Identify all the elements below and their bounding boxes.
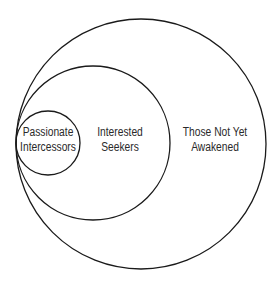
label-line: Awakened: [183, 140, 247, 155]
label-line: Intercessors: [20, 140, 76, 155]
label-line: Passionate: [20, 125, 76, 140]
label-those-not-yet-awakened: Those Not Yet Awakened: [183, 125, 247, 155]
label-line: Interested: [97, 125, 143, 140]
label-line: Those Not Yet: [183, 125, 247, 140]
label-interested-seekers: Interested Seekers: [97, 125, 143, 155]
label-passionate-intercessors: Passionate Intercessors: [20, 125, 76, 155]
label-line: Seekers: [97, 140, 143, 155]
